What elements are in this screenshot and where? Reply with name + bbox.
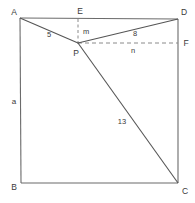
geometry-canvas: A B C D E F P 5 8 13 m n a bbox=[0, 0, 195, 203]
label-vertex-b: B bbox=[11, 182, 17, 192]
label-segment-pc: 13 bbox=[118, 117, 126, 126]
geometry-figure: A B C D E F P 5 8 13 m n a bbox=[0, 0, 195, 203]
label-point-e: E bbox=[77, 6, 83, 16]
label-segment-pf: n bbox=[131, 46, 135, 55]
segment-pc bbox=[78, 43, 178, 183]
label-vertex-a: A bbox=[11, 7, 17, 17]
label-point-f: F bbox=[183, 38, 188, 48]
label-vertex-c: C bbox=[182, 186, 188, 196]
label-segment-ep: m bbox=[83, 27, 89, 36]
label-segment-pd: 8 bbox=[133, 29, 137, 38]
label-side-ab: a bbox=[12, 97, 17, 106]
label-point-p: P bbox=[73, 48, 79, 58]
segment-pd bbox=[78, 19, 178, 43]
square-side-ad bbox=[20, 18, 178, 19]
label-segment-ap: 5 bbox=[47, 30, 51, 39]
label-vertex-d: D bbox=[181, 7, 187, 17]
square-side-ba bbox=[20, 18, 21, 183]
